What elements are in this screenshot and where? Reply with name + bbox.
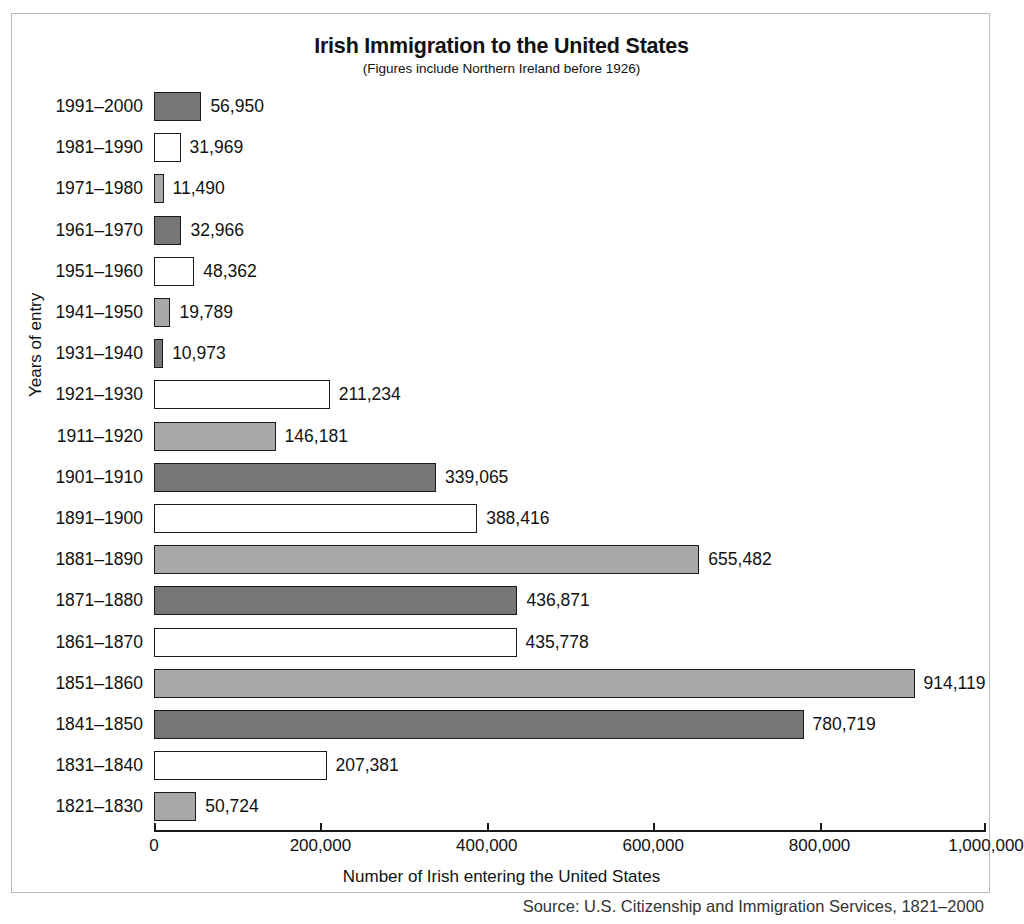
bar — [154, 422, 276, 451]
bar-row: 1841–1850780,719 — [154, 704, 986, 745]
category-label: 1911–1920 — [11, 422, 143, 451]
bar-row: 1911–1920146,181 — [154, 416, 986, 457]
bar-value-label: 780,719 — [813, 710, 876, 739]
bar-value-label: 19,789 — [179, 298, 233, 327]
bar — [154, 628, 517, 657]
chart-subtitle: (Figures include Northern Ireland before… — [12, 61, 991, 76]
bar — [154, 504, 477, 533]
x-axis-tick-label: 800,000 — [789, 836, 850, 856]
x-axis: 0200,000400,000600,000800,0001,000,000 — [154, 830, 986, 831]
category-label: 1871–1880 — [11, 586, 143, 615]
category-label: 1891–1900 — [11, 504, 143, 533]
bar — [154, 710, 804, 739]
bar-row: 1901–1910339,065 — [154, 457, 986, 498]
category-label: 1831–1840 — [11, 751, 143, 780]
bar — [154, 92, 201, 121]
bar-value-label: 10,973 — [172, 339, 226, 368]
bar — [154, 545, 699, 574]
bar — [154, 463, 436, 492]
bar-row: 1931–194010,973 — [154, 333, 986, 374]
bar-row: 1861–1870435,778 — [154, 622, 986, 663]
bar-row: 1981–199031,969 — [154, 127, 986, 168]
category-label: 1971–1980 — [11, 174, 143, 203]
x-axis-tick-label: 0 — [149, 836, 158, 856]
source-note: Source: U.S. Citizenship and Immigration… — [11, 897, 990, 916]
bar-value-label: 207,381 — [336, 751, 399, 780]
bar-row: 1941–195019,789 — [154, 292, 986, 333]
x-axis-title: Number of Irish entering the United Stat… — [12, 867, 991, 887]
bar — [154, 792, 196, 821]
category-label: 1991–2000 — [11, 92, 143, 121]
bar-row: 1921–1930211,234 — [154, 374, 986, 415]
bar-row: 1821–183050,724 — [154, 786, 986, 827]
bar-value-label: 31,969 — [190, 133, 244, 162]
bar — [154, 586, 517, 615]
category-label: 1851–1860 — [11, 669, 143, 698]
bar-value-label: 655,482 — [708, 545, 771, 574]
x-axis-tick — [984, 823, 986, 830]
category-label: 1981–1990 — [11, 133, 143, 162]
bar-value-label: 914,119 — [924, 669, 986, 698]
x-axis-tick-label: 1,000,000 — [948, 836, 1024, 856]
bar-value-label: 211,234 — [339, 380, 401, 409]
bar — [154, 380, 330, 409]
bar-value-label: 32,966 — [190, 216, 244, 245]
bar-value-label: 339,065 — [445, 463, 508, 492]
bar — [154, 257, 194, 286]
bar-value-label: 388,416 — [486, 504, 549, 533]
bar-row: 1991–200056,950 — [154, 86, 986, 127]
bar-row: 1951–196048,362 — [154, 251, 986, 292]
x-axis-tick-label: 200,000 — [290, 836, 351, 856]
category-label: 1881–1890 — [11, 545, 143, 574]
bar — [154, 339, 163, 368]
bar-row: 1831–1840207,381 — [154, 745, 986, 786]
x-axis-tick — [653, 823, 655, 830]
bar — [154, 174, 164, 203]
bar-row: 1871–1880436,871 — [154, 580, 986, 621]
category-label: 1861–1870 — [11, 628, 143, 657]
category-label: 1901–1910 — [11, 463, 143, 492]
bar-row: 1881–1890655,482 — [154, 539, 986, 580]
chart-frame: Irish Immigration to the United States (… — [11, 13, 990, 893]
bar-value-label: 56,950 — [210, 92, 264, 121]
x-axis-tick — [820, 823, 822, 830]
category-label: 1961–1970 — [11, 216, 143, 245]
bar — [154, 751, 327, 780]
y-axis-title: Years of entry — [26, 293, 46, 397]
bar-value-label: 11,490 — [173, 174, 225, 203]
x-axis-line — [154, 830, 986, 832]
bar — [154, 133, 181, 162]
bar-value-label: 146,181 — [285, 422, 348, 451]
bar-value-label: 48,362 — [203, 257, 257, 286]
x-axis-tick — [320, 823, 322, 830]
bar-value-label: 436,871 — [526, 586, 589, 615]
bar — [154, 298, 170, 327]
category-label: 1951–1960 — [11, 257, 143, 286]
bar — [154, 669, 915, 698]
plot-area: 1991–200056,9501981–199031,9691971–19801… — [154, 86, 986, 826]
x-axis-tick-label: 600,000 — [622, 836, 683, 856]
category-label: 1821–1830 — [11, 792, 143, 821]
bar-row: 1851–1860914,119 — [154, 663, 986, 704]
x-axis-tick — [154, 823, 156, 830]
x-axis-tick-label: 400,000 — [456, 836, 517, 856]
category-label: 1841–1850 — [11, 710, 143, 739]
bar-value-label: 50,724 — [205, 792, 259, 821]
chart-title: Irish Immigration to the United States — [12, 34, 991, 59]
bar-row: 1891–1900388,416 — [154, 498, 986, 539]
bar — [154, 216, 181, 245]
x-axis-tick — [487, 823, 489, 830]
bar-value-label: 435,778 — [526, 628, 589, 657]
bar-row: 1961–197032,966 — [154, 210, 986, 251]
bar-row: 1971–198011,490 — [154, 168, 986, 209]
